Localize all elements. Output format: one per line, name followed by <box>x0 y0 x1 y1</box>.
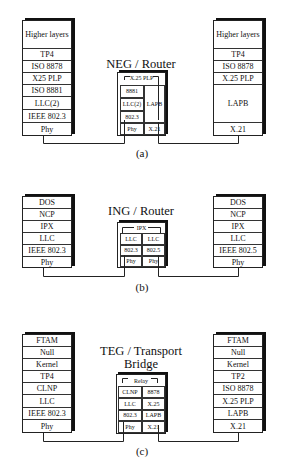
link-line <box>159 255 239 277</box>
link-line <box>44 255 125 277</box>
link-line <box>159 122 239 144</box>
relay-bracket <box>151 379 158 384</box>
link-line <box>44 422 124 442</box>
relay-bracket <box>148 228 161 234</box>
relay-bracket <box>123 379 129 384</box>
relay-bracket <box>123 228 135 234</box>
link-line <box>44 120 125 144</box>
connection-lines <box>0 0 283 476</box>
relay-bracket <box>125 77 131 81</box>
link-line <box>159 425 239 442</box>
relay-bracket <box>153 77 159 121</box>
